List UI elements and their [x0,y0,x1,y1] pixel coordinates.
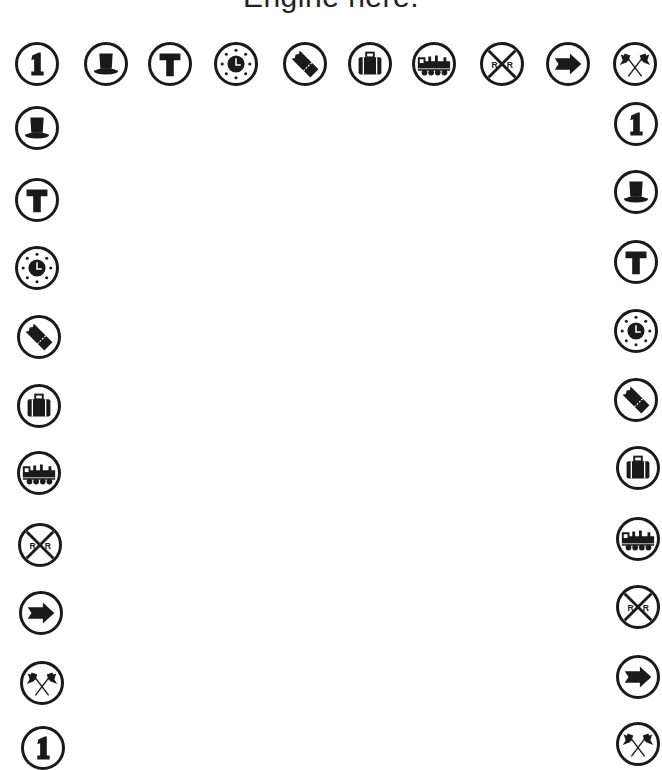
suitcase-icon-glyph [351,45,389,83]
locomotive-icon-glyph [619,520,657,558]
number-one-icon-glyph [18,45,56,83]
letter-t-icon [148,42,192,86]
top-hat-icon [15,106,59,150]
number-one-icon-glyph [617,105,655,143]
ticket-icon [283,42,327,86]
letter-t-icon-glyph [151,45,189,83]
railroad-crossing-icon: RR [616,585,660,629]
crossed-flags-icon-glyph [23,664,61,702]
suitcase-icon [17,384,61,428]
page-title: Engine here. [0,0,662,14]
suitcase-icon [616,446,660,490]
svg-text:R: R [643,603,649,613]
svg-text:R: R [45,541,51,551]
railroad-crossing-icon-glyph: RR [619,588,657,626]
arrow-right-icon-glyph [619,658,657,696]
locomotive-icon-glyph [20,454,58,492]
svg-text:R: R [30,541,36,551]
arrow-right-icon-glyph [22,594,60,632]
svg-text:R: R [507,60,513,70]
railroad-crossing-icon-glyph: RR [483,45,521,83]
ticket-icon [614,378,658,422]
letter-t-icon-glyph [617,243,655,281]
number-one-icon [15,42,59,86]
railroad-crossing-icon: RR [480,42,524,86]
locomotive-icon-glyph [415,45,453,83]
svg-text:R: R [628,603,634,613]
crossed-flags-icon [616,722,660,766]
suitcase-icon-glyph [20,387,58,425]
locomotive-icon [412,42,456,86]
crossed-flags-icon [613,42,657,86]
top-hat-icon [84,42,128,86]
ticket-icon-glyph [286,45,324,83]
clock-icon-glyph [18,249,56,287]
crossed-flags-icon [20,661,64,705]
railroad-crossing-icon-glyph: RR [21,526,59,564]
clock-icon [614,309,658,353]
clock-icon-glyph [217,45,255,83]
clock-icon [214,42,258,86]
top-hat-icon-glyph [18,109,56,147]
arrow-right-icon [546,42,590,86]
ticket-icon-glyph [617,381,655,419]
clock-icon [15,246,59,290]
locomotive-icon [616,517,660,561]
top-hat-icon-glyph [617,173,655,211]
arrow-right-icon [616,655,660,699]
crossed-flags-icon-glyph [619,725,657,763]
arrow-right-icon [19,591,63,635]
letter-t-icon [15,178,59,222]
railroad-crossing-icon: RR [18,523,62,567]
top-hat-icon-glyph [87,45,125,83]
arrow-right-icon-glyph [549,45,587,83]
clock-icon-glyph [617,312,655,350]
crossed-flags-icon-glyph [616,45,654,83]
suitcase-icon-glyph [619,449,657,487]
svg-text:R: R [492,60,498,70]
top-hat-icon [614,170,658,214]
suitcase-icon [348,42,392,86]
number-one-icon [21,726,65,770]
locomotive-icon [17,451,61,495]
number-one-icon-glyph [24,729,62,767]
letter-t-icon [614,240,658,284]
ticket-icon-glyph [20,318,58,356]
number-one-icon [614,102,658,146]
letter-t-icon-glyph [18,181,56,219]
ticket-icon [17,315,61,359]
